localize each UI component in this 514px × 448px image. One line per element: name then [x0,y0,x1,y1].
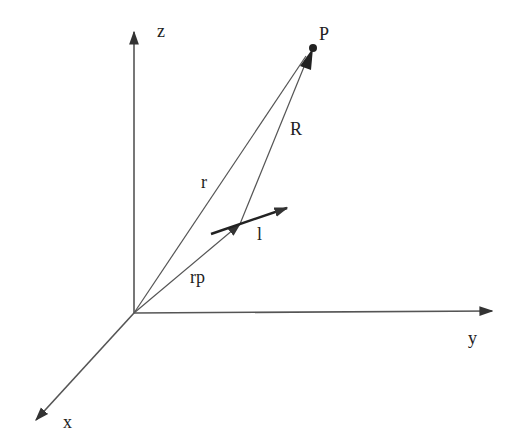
current-element-l [211,208,287,234]
l-label: l [257,225,262,243]
r-vector [134,56,306,313]
diagram: z P R r l rp y x [0,0,514,448]
r-vector-label: r [201,173,207,191]
point-P-dot [309,44,317,52]
z-axis-label: z [157,22,165,40]
x-axis [36,313,134,420]
y-axis [134,311,492,313]
y-axis-label: y [468,329,477,347]
x-axis-label: x [63,413,72,431]
point-P-label: P [319,25,329,43]
R-vector-label: R [290,120,302,138]
rp-vector [134,224,240,313]
R-vector [240,57,308,224]
rp-vector-label: rp [190,268,205,286]
